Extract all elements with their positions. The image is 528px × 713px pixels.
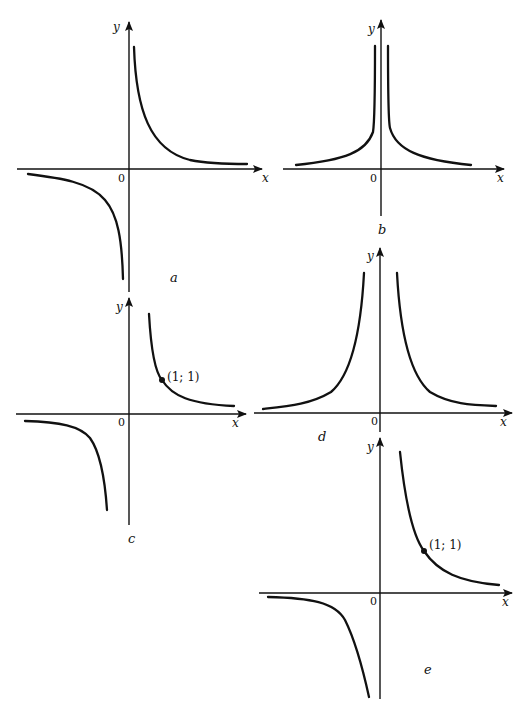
x-axis-label: x: [500, 415, 507, 429]
x-axis-label: x: [502, 595, 509, 609]
curve-branch-left: [263, 273, 364, 409]
point-label: (1; 1): [167, 370, 200, 384]
point-label: (1; 1): [429, 538, 462, 552]
x-axis-label: x: [262, 171, 269, 185]
x-axis-label: x: [232, 416, 239, 430]
y-axis-label: y: [112, 20, 120, 34]
panel-caption: c: [128, 531, 136, 546]
point-marker: [159, 377, 165, 383]
figure-canvas: y x 0 a y x 0 b (1; 1) y x 0 c y x 0 d: [0, 0, 528, 713]
y-axis-label: y: [367, 22, 375, 36]
y-axis-label: y: [115, 300, 123, 314]
curve-branch-right: [400, 452, 499, 585]
panel-d: y x 0 d: [254, 248, 512, 444]
panel-caption: a: [170, 270, 178, 285]
curve-branch-left: [268, 597, 369, 697]
panel-caption: d: [318, 429, 326, 444]
panel-c: (1; 1) y x 0 c: [16, 298, 246, 546]
origin-label: 0: [371, 415, 378, 428]
y-axis-label: y: [366, 440, 374, 454]
curve-branch-left: [28, 174, 123, 279]
panel-caption: b: [378, 222, 386, 237]
curve-branch-right: [397, 273, 496, 406]
curve-branch-left: [296, 46, 375, 165]
panel-a: y x 0 a: [17, 20, 269, 292]
y-axis-label: y: [366, 249, 374, 263]
panel-caption: e: [424, 662, 432, 677]
curve-branch-right: [134, 47, 247, 164]
origin-label: 0: [370, 172, 377, 185]
curve-branch-right: [388, 46, 471, 165]
panel-b: y x 0 b: [283, 20, 504, 237]
panel-e: (1; 1) y x 0 e: [259, 438, 512, 699]
origin-label: 0: [118, 416, 125, 429]
curve-branch-left: [25, 421, 107, 510]
point-marker: [421, 548, 427, 554]
origin-label: 0: [370, 595, 377, 608]
curve-branch-right: [149, 314, 234, 406]
origin-label: 0: [118, 172, 125, 185]
x-axis-label: x: [497, 171, 504, 185]
